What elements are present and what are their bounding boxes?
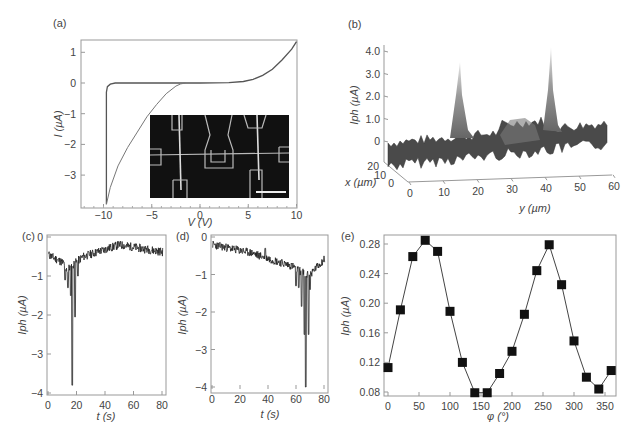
panel-label-d: (d)	[176, 230, 189, 242]
x-tick-label: −5	[146, 209, 158, 221]
trace-line	[213, 241, 325, 387]
y-tick-label: 0	[201, 231, 207, 243]
y-axis-label: Iph (µA)	[16, 295, 28, 335]
y-tick-label: 20	[472, 185, 484, 197]
trace-line	[49, 241, 163, 385]
data-point-square	[570, 336, 579, 345]
plot-frame	[47, 235, 166, 395]
z-axis-label: Iph (µA)	[348, 85, 360, 125]
y-tick-label: −4	[195, 381, 207, 393]
z-tick-label: 3.0	[365, 68, 380, 80]
figure: (a) −10−50510 10−1−2−3 V (V)	[0, 0, 638, 438]
photocurrent-trace	[213, 241, 325, 387]
photocurrent-trace	[49, 241, 163, 385]
z-tick	[384, 96, 388, 97]
x-tick-label: 250	[534, 400, 552, 412]
x-tick-label: 20	[234, 393, 246, 405]
x-tick-label: 5	[245, 209, 251, 221]
x-tick-label: 60	[128, 399, 140, 411]
x-tick-label: 300	[565, 400, 583, 412]
y-tick-label: 0	[37, 231, 43, 243]
data-point-square	[458, 358, 467, 367]
x-tick-label: 50	[413, 400, 425, 412]
y-tick-label: 0.08	[360, 386, 381, 398]
surface-plot	[388, 47, 607, 170]
y-tick-label: 40	[540, 182, 552, 194]
y-tick-label: −2	[64, 138, 76, 150]
y-tick-label: 0.24	[360, 268, 381, 280]
panel-b-3d-surface: (b) 4.03.02.01.00 20100 0102030405060 y …	[344, 18, 620, 214]
data-point-square	[508, 347, 517, 356]
y-tick-label: 0.12	[360, 356, 381, 368]
data-point-square	[408, 252, 417, 261]
y-tick-label: −3	[195, 344, 207, 356]
data-point-square	[582, 373, 591, 382]
data-point-square	[495, 369, 504, 378]
x-axis-label: x (µm)	[344, 176, 377, 188]
data-point-square	[470, 388, 479, 397]
y-tick-label: −3	[31, 348, 43, 360]
panel-label-b: (b)	[348, 18, 361, 30]
x-tick-label: 20	[71, 399, 83, 411]
y-tick-label: 60	[608, 180, 620, 192]
y-tick-label: 50	[574, 181, 586, 193]
y-tick	[409, 182, 411, 185]
x-tick-label: 0	[45, 399, 51, 411]
z-tick	[384, 74, 388, 75]
x-axis-label: V (V)	[187, 216, 212, 228]
panel-label-a: (a)	[53, 17, 66, 29]
y-axis-label: Iph (µA)	[176, 295, 188, 335]
x-tick-label: 10	[291, 209, 303, 221]
x-tick-label: 350	[596, 400, 614, 412]
z-tick	[384, 119, 388, 120]
axis-ticks: 0501001502002503003500.280.240.200.160.1…	[360, 238, 614, 412]
x-axis-label: t (s)	[261, 408, 280, 420]
x-tick-label: 80	[156, 399, 168, 411]
x-tick-label: −10	[95, 209, 113, 221]
y-tick-label: −2	[195, 306, 207, 318]
peak-1	[450, 62, 474, 138]
z-tick-label: 0	[374, 135, 380, 147]
data-point-square	[433, 247, 442, 256]
data-point-square	[545, 240, 554, 249]
y-axis-label: y (µm)	[518, 202, 551, 214]
y-tick-label: 1	[70, 46, 76, 58]
data-point-square	[396, 305, 405, 314]
z-tick-label: 4.0	[365, 45, 380, 57]
data-point-square	[446, 307, 455, 316]
y-tick-label: −1	[31, 270, 43, 282]
y-tick-label: 0.28	[360, 238, 381, 250]
x-axis-label: t (s)	[97, 410, 116, 422]
z-tick-label: 2.0	[365, 90, 380, 102]
x-axis-label: φ (°)	[487, 410, 509, 422]
peak-2	[543, 47, 562, 132]
panel-label-e: (e)	[341, 230, 354, 242]
panel-e-polarization: (e) 0501001502002503003500.280.240.200.1…	[339, 230, 616, 422]
data-point-square	[384, 363, 393, 372]
z-tick-labels: 4.03.02.01.00	[365, 45, 388, 147]
data-point-square	[607, 366, 616, 375]
data-point-square	[532, 266, 541, 275]
y-tick-labels: 10−1−2−3	[64, 46, 76, 181]
data-point-square	[421, 236, 430, 245]
x-tick-label: 0	[385, 400, 391, 412]
x-tick-label: 0	[388, 177, 394, 189]
panel-a-iv-curve: (a) −10−50510 10−1−2−3 V (V)	[52, 17, 302, 228]
surface-base	[388, 117, 607, 170]
y-tick-label: 0	[407, 187, 413, 199]
y-tick-label: 0	[70, 77, 76, 89]
sem-inset-image	[150, 115, 289, 198]
x-tick-label: 40	[262, 393, 274, 405]
y-tick-label: 30	[506, 183, 518, 195]
y-tick-label: 0.16	[360, 327, 381, 339]
data-point-square	[594, 385, 603, 394]
y-tick-label: −4	[31, 387, 43, 399]
panel-d-time-trace: (d) 0204060800−1−2−3−4 t (s) Iph (µA)	[176, 230, 330, 420]
y-tick-label: 0.20	[360, 297, 381, 309]
z-tick	[384, 51, 388, 52]
y-tick-label: 10	[438, 186, 450, 198]
y-tick-label: −3	[64, 169, 76, 181]
x-tick-label: 0	[209, 393, 215, 405]
y-tick-label: −1	[64, 108, 76, 120]
y-axis-label: Iph (µA)	[339, 296, 351, 336]
